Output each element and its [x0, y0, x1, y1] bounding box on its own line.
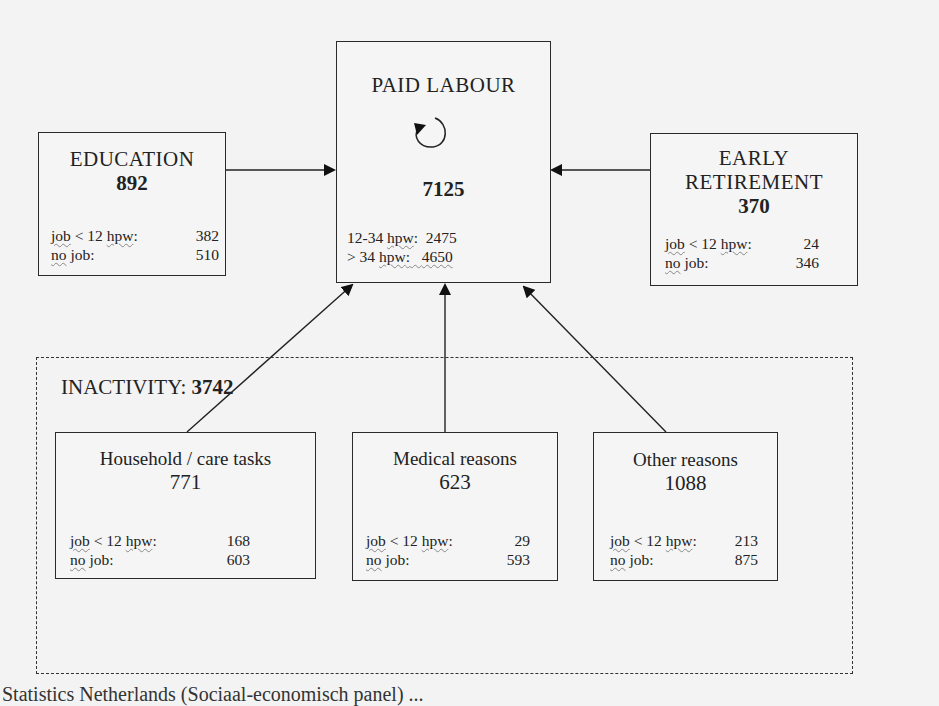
- figure-caption: Statistics Netherlands (Sociaal-economis…: [2, 683, 424, 706]
- household-row-no-job: no job:603: [70, 550, 250, 569]
- paid-labour-row-over-34: > 34 hpw: 4650: [347, 247, 457, 266]
- early-retirement-total: 370: [651, 194, 857, 218]
- inactivity-total: 3742: [191, 375, 233, 399]
- early-retirement-title-line1: EARLY: [651, 146, 857, 170]
- medical-box: Medical reasons 623 job < 12 hpw:29 no j…: [352, 432, 558, 581]
- household-row-job: job < 12 hpw:168: [70, 531, 250, 550]
- household-title: Household / care tasks: [56, 447, 315, 470]
- early-retirement-row-no-job: no job:346: [665, 253, 819, 272]
- medical-total: 623: [353, 470, 557, 494]
- paid-labour-title: PAID LABOUR: [337, 73, 550, 97]
- other-reasons-row-job: job < 12 hpw:213: [610, 531, 758, 550]
- early-retirement-breakdown: job < 12 hpw:24 no job:346: [665, 234, 819, 272]
- other-reasons-box: Other reasons 1088 job < 12 hpw:213 no j…: [593, 432, 778, 581]
- circular-arrow-icon: [409, 115, 459, 155]
- paid-labour-row-12-34: 12-34 hpw: 2475: [347, 228, 457, 247]
- other-reasons-total: 1088: [594, 471, 777, 495]
- early-retirement-box: EARLY RETIREMENT 370 job < 12 hpw:24 no …: [650, 133, 858, 286]
- education-box: EDUCATION 892 job < 12 hpw:382 no job:51…: [38, 132, 226, 276]
- other-reasons-title: Other reasons: [594, 448, 777, 471]
- education-breakdown: job < 12 hpw:382 no job:510: [51, 226, 219, 264]
- medical-breakdown: job < 12 hpw:29 no job:593: [366, 531, 530, 569]
- medical-row-no-job: no job:593: [366, 550, 530, 569]
- education-row-no-job: no job:510: [51, 245, 219, 264]
- other-reasons-row-no-job: no job:875: [610, 550, 758, 569]
- education-total: 892: [39, 171, 225, 195]
- medical-row-job: job < 12 hpw:29: [366, 531, 530, 550]
- education-row-job: job < 12 hpw:382: [51, 226, 219, 245]
- household-breakdown: job < 12 hpw:168 no job:603: [70, 531, 250, 569]
- early-retirement-title-line2: RETIREMENT: [651, 170, 857, 194]
- inactivity-heading: INACTIVITY: 3742: [61, 375, 233, 399]
- medical-title: Medical reasons: [353, 447, 557, 470]
- household-box: Household / care tasks 771 job < 12 hpw:…: [55, 432, 316, 579]
- paid-labour-breakdown: 12-34 hpw: 2475 > 34 hpw: 4650: [347, 228, 457, 266]
- paid-labour-total: 7125: [337, 177, 550, 201]
- household-total: 771: [56, 470, 315, 494]
- education-title: EDUCATION: [39, 147, 225, 171]
- inactivity-label: INACTIVITY:: [61, 375, 186, 399]
- early-retirement-row-job: job < 12 hpw:24: [665, 234, 819, 253]
- other-reasons-breakdown: job < 12 hpw:213 no job:875: [610, 531, 758, 569]
- paid-labour-box: PAID LABOUR 7125 12-34 hpw: 2475 > 34 hp…: [336, 41, 551, 283]
